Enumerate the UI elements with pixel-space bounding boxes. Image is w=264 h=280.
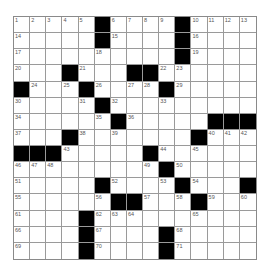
grid-cell[interactable] (95, 146, 111, 162)
grid-cell[interactable]: 69 (14, 243, 30, 259)
grid-cell[interactable] (191, 82, 207, 98)
grid-cell[interactable] (224, 146, 240, 162)
grid-cell[interactable]: 35 (95, 114, 111, 130)
grid-cell[interactable]: 3 (46, 17, 62, 33)
grid-cell[interactable]: 28 (143, 82, 159, 98)
grid-cell[interactable]: 32 (111, 98, 127, 114)
grid-cell[interactable]: 58 (175, 194, 191, 210)
grid-cell[interactable] (30, 114, 46, 130)
grid-cell[interactable] (79, 114, 95, 130)
grid-cell[interactable] (159, 33, 175, 49)
grid-cell[interactable] (224, 49, 240, 65)
grid-cell[interactable]: 70 (95, 243, 111, 259)
grid-cell[interactable] (159, 114, 175, 130)
grid-cell[interactable] (240, 49, 256, 65)
grid-cell[interactable]: 39 (111, 130, 127, 146)
grid-cell[interactable] (240, 243, 256, 259)
grid-cell[interactable] (208, 82, 224, 98)
grid-cell[interactable] (240, 82, 256, 98)
grid-cell[interactable]: 68 (175, 227, 191, 243)
grid-cell[interactable] (46, 194, 62, 210)
grid-cell[interactable]: 60 (240, 194, 256, 210)
grid-cell[interactable] (30, 194, 46, 210)
grid-cell[interactable]: 23 (175, 65, 191, 81)
grid-cell[interactable] (143, 49, 159, 65)
grid-cell[interactable] (143, 211, 159, 227)
grid-cell[interactable] (143, 178, 159, 194)
grid-cell[interactable]: 50 (175, 162, 191, 178)
grid-cell[interactable] (240, 146, 256, 162)
grid-cell[interactable]: 64 (127, 211, 143, 227)
grid-cell[interactable]: 8 (143, 17, 159, 33)
grid-cell[interactable] (46, 82, 62, 98)
grid-cell[interactable] (30, 243, 46, 259)
grid-cell[interactable] (240, 98, 256, 114)
grid-cell[interactable]: 7 (127, 17, 143, 33)
grid-cell[interactable]: 61 (14, 211, 30, 227)
grid-cell[interactable] (208, 178, 224, 194)
grid-cell[interactable] (62, 162, 78, 178)
grid-cell[interactable] (111, 146, 127, 162)
grid-cell[interactable] (208, 65, 224, 81)
grid-cell[interactable] (175, 114, 191, 130)
grid-cell[interactable] (46, 49, 62, 65)
grid-cell[interactable]: 19 (191, 49, 207, 65)
grid-cell[interactable] (208, 227, 224, 243)
grid-cell[interactable]: 1 (14, 17, 30, 33)
grid-cell[interactable] (159, 49, 175, 65)
grid-cell[interactable]: 4 (62, 17, 78, 33)
grid-cell[interactable]: 66 (14, 227, 30, 243)
grid-cell[interactable] (224, 211, 240, 227)
grid-cell[interactable] (127, 130, 143, 146)
grid-cell[interactable] (224, 243, 240, 259)
grid-cell[interactable]: 29 (175, 82, 191, 98)
grid-cell[interactable] (30, 178, 46, 194)
grid-cell[interactable] (46, 114, 62, 130)
grid-cell[interactable]: 20 (14, 65, 30, 81)
grid-cell[interactable] (62, 178, 78, 194)
grid-cell[interactable] (79, 178, 95, 194)
grid-cell[interactable] (240, 211, 256, 227)
grid-cell[interactable]: 16 (191, 33, 207, 49)
grid-cell[interactable] (175, 211, 191, 227)
grid-cell[interactable]: 13 (240, 17, 256, 33)
grid-cell[interactable]: 25 (62, 82, 78, 98)
grid-cell[interactable] (224, 162, 240, 178)
grid-cell[interactable]: 2 (30, 17, 46, 33)
grid-cell[interactable] (208, 98, 224, 114)
grid-cell[interactable] (95, 65, 111, 81)
grid-cell[interactable] (224, 227, 240, 243)
grid-cell[interactable] (62, 49, 78, 65)
grid-cell[interactable]: 14 (14, 33, 30, 49)
grid-cell[interactable] (46, 130, 62, 146)
grid-cell[interactable] (224, 98, 240, 114)
grid-cell[interactable] (240, 33, 256, 49)
grid-cell[interactable]: 34 (14, 114, 30, 130)
grid-cell[interactable] (224, 178, 240, 194)
grid-cell[interactable] (224, 65, 240, 81)
grid-cell[interactable] (46, 243, 62, 259)
grid-cell[interactable]: 46 (14, 162, 30, 178)
grid-cell[interactable] (127, 33, 143, 49)
grid-cell[interactable] (127, 98, 143, 114)
grid-cell[interactable] (95, 162, 111, 178)
grid-cell[interactable] (143, 33, 159, 49)
grid-cell[interactable]: 56 (95, 194, 111, 210)
grid-cell[interactable] (62, 114, 78, 130)
grid-cell[interactable] (111, 82, 127, 98)
grid-cell[interactable]: 44 (159, 146, 175, 162)
grid-cell[interactable]: 6 (111, 17, 127, 33)
grid-cell[interactable] (30, 98, 46, 114)
grid-cell[interactable] (208, 243, 224, 259)
grid-cell[interactable] (30, 130, 46, 146)
grid-cell[interactable]: 9 (159, 17, 175, 33)
grid-cell[interactable]: 59 (208, 194, 224, 210)
grid-cell[interactable] (79, 146, 95, 162)
grid-cell[interactable] (143, 227, 159, 243)
grid-cell[interactable] (127, 178, 143, 194)
grid-cell[interactable]: 41 (224, 130, 240, 146)
grid-cell[interactable]: 67 (95, 227, 111, 243)
grid-cell[interactable] (62, 211, 78, 227)
grid-cell[interactable]: 22 (159, 65, 175, 81)
grid-cell[interactable] (159, 130, 175, 146)
